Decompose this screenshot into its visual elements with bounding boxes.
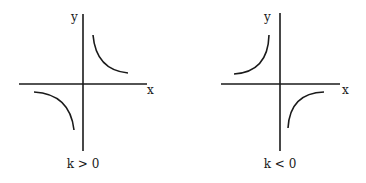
hyperbola-branch-quadrant-4 [288,92,324,128]
panel-k-negative: y x k < 0 [221,10,349,171]
hyperbola-branch-quadrant-2 [234,35,269,74]
panel-k-positive: y x k > 0 [19,10,154,171]
x-axis-label: x [147,83,154,97]
x-axis-label: x [342,83,349,97]
panel-caption: k > 0 [67,157,100,171]
y-axis-label: y [70,10,78,24]
y-axis-label: y [263,10,271,24]
panel-caption: k < 0 [264,157,297,171]
hyperbola-branch-quadrant-1 [93,35,128,73]
hyperbola-branch-quadrant-3 [34,92,74,130]
hyperbola-diagram: y x k > 0 y x k < 0 [0,0,366,183]
